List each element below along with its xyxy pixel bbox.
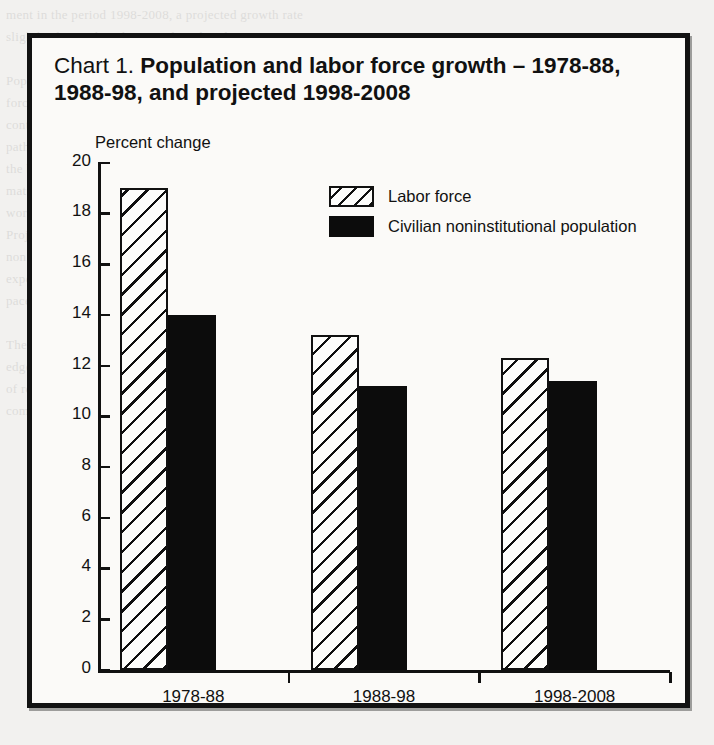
y-axis-tick-label: 2	[57, 607, 91, 627]
y-axis-tick-label: 12	[57, 354, 91, 374]
y-axis-tick-label: 10	[57, 404, 91, 424]
y-axis-tick: 12	[98, 365, 110, 368]
y-axis-tick: 16	[98, 263, 110, 266]
y-axis-tick: 20	[98, 162, 110, 165]
y-axis-tick: 0	[98, 669, 110, 672]
y-axis-label: Percent change	[95, 133, 211, 152]
x-axis-line	[98, 670, 670, 673]
bar-1978-88-labor-force	[120, 188, 168, 670]
x-axis-category-divider	[478, 672, 481, 683]
chart-title-prefix: Chart 1.	[54, 53, 140, 78]
y-axis-tick-label: 14	[57, 303, 91, 323]
y-axis-tick: 18	[98, 212, 110, 215]
x-axis-category-label: 1978-88	[98, 687, 289, 707]
x-axis-category-label: 1998-2008	[479, 687, 670, 707]
y-axis-tick-label: 6	[57, 506, 91, 526]
y-axis-tick-label: 4	[57, 556, 91, 576]
y-axis-tick-label: 16	[57, 252, 91, 272]
y-axis-tick-label: 18	[57, 201, 91, 221]
y-axis-tick: 8	[98, 466, 110, 469]
bar-1988-98-labor-force	[311, 335, 359, 670]
y-axis-tick: 4	[98, 567, 110, 570]
y-axis-tick-label: 0	[57, 658, 91, 678]
y-axis-tick: 2	[98, 618, 110, 621]
bar-1998-2008-labor-force	[501, 358, 549, 670]
x-axis-category-label: 1988-98	[289, 687, 480, 707]
y-axis-tick: 10	[98, 415, 110, 418]
y-axis-tick: 6	[98, 517, 110, 520]
y-axis-tick-label: 20	[57, 151, 91, 171]
chart-title: Chart 1. Population and labor force grow…	[54, 52, 654, 106]
bar-1978-88-civilian-noninstitutional-population	[168, 315, 216, 670]
bar-1998-2008-civilian-noninstitutional-population	[549, 381, 597, 670]
chart-frame: Chart 1. Population and labor force grow…	[27, 33, 690, 708]
y-axis-tick: 14	[98, 314, 110, 317]
ghost-text-line: ment in the period 1998-2008, a projecte…	[6, 4, 708, 26]
x-axis-category-divider	[288, 672, 291, 683]
bar-1988-98-civilian-noninstitutional-population	[359, 386, 407, 670]
plot-area: 024681012141618201978-881988-981998-2008	[98, 163, 670, 670]
y-axis-tick-label: 8	[57, 455, 91, 475]
x-axis-category-divider	[669, 672, 672, 683]
